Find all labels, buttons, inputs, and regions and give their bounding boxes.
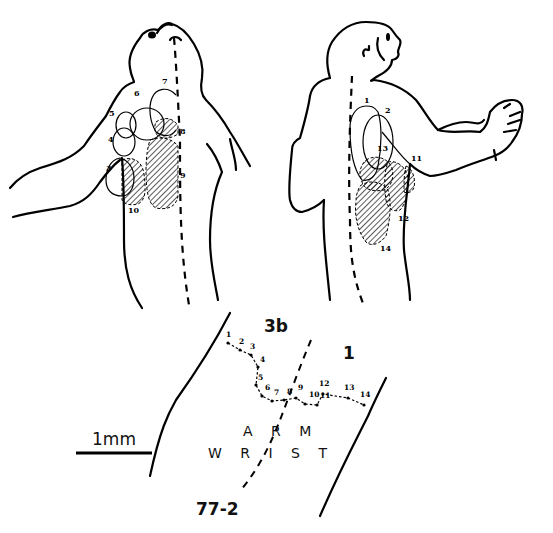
area-border-3b-1 [241, 340, 311, 490]
track-point-5 [254, 383, 257, 386]
track-point-label-6: 6 [265, 383, 270, 392]
track-point-10 [303, 402, 306, 405]
scale-bar: 1mm [76, 429, 152, 453]
track-point-label-7: 7 [274, 388, 279, 397]
right-monkey-ear [363, 46, 369, 56]
track-point-label-12: 12 [319, 379, 329, 388]
receptive-field-9 [146, 138, 178, 209]
track-point-label-14: 14 [360, 390, 370, 399]
left-monkey-arm-lower [13, 160, 120, 217]
region-label-arm: A R M [243, 423, 318, 439]
left-monkey-eye-icon [148, 32, 156, 39]
track-point-label-1: 1 [226, 330, 231, 339]
track-point-label-4: 4 [260, 355, 265, 364]
rf-label-6: 6 [134, 88, 140, 98]
rf-label-3: 3 [106, 163, 112, 173]
right-monkey-face-line [377, 38, 384, 60]
area-label-3b: 3b [264, 316, 288, 336]
track-point-1 [226, 341, 229, 344]
right-monkey-left-shoulder [289, 78, 330, 212]
track-point-label-9: 9 [298, 383, 303, 392]
track-point-9 [294, 396, 297, 399]
track-point-label-13: 13 [344, 383, 354, 392]
left-monkey-figure: 3 4 5 6 7 8 9 10 [10, 23, 250, 308]
area-label-1: 1 [343, 343, 355, 363]
left-monkey-back-right [230, 139, 236, 170]
track-point-6 [260, 394, 263, 397]
rf-label-13: 13 [377, 143, 389, 153]
track-point-label-11: 11 [320, 391, 330, 400]
left-monkey-midline-cap [170, 37, 181, 40]
track-point-label-8: 8 [287, 387, 292, 396]
track-point-8 [282, 398, 285, 401]
right-monkey-figure: 1 2 11 12 13 14 [289, 22, 522, 306]
track-point-14 [362, 403, 365, 406]
rf-label-8: 8 [180, 126, 186, 136]
right-monkey-right-shoulder [374, 80, 523, 176]
track-point-label-10: 10 [309, 390, 319, 399]
rf-label-12: 12 [398, 213, 409, 223]
right-monkey-left-side [323, 200, 330, 300]
electrode-track: 1234567891011121314 [226, 330, 370, 407]
track-point-label-2: 2 [239, 337, 244, 346]
figure-canvas: 3 4 5 6 7 8 9 10 1 2 [0, 0, 553, 533]
rf-label-11: 11 [411, 153, 422, 163]
region-label-wrist: W R I S T [208, 445, 334, 461]
rf-label-5: 5 [109, 108, 115, 118]
left-monkey-torso-right [207, 144, 222, 300]
track-id-label: 77-2 [196, 499, 239, 519]
right-monkey-eye-icon [386, 33, 390, 41]
rf-label-7: 7 [162, 76, 168, 86]
track-point-13 [346, 396, 349, 399]
track-point-12 [321, 392, 324, 395]
track-point-4 [256, 365, 259, 368]
track-point-2 [238, 348, 241, 351]
left-monkey-nose [157, 24, 172, 33]
scale-bar-label: 1mm [92, 429, 136, 449]
rf-label-9: 9 [180, 170, 186, 180]
rf-label-2: 2 [385, 105, 391, 115]
rf-label-14: 14 [380, 243, 392, 253]
right-monkey-hand-fingers [494, 104, 520, 160]
rf-label-10: 10 [128, 205, 140, 215]
track-point-11 [315, 403, 318, 406]
right-monkey-forearm-top [438, 120, 484, 130]
track-point-label-3: 3 [250, 342, 255, 351]
receptive-field-11 [404, 166, 415, 193]
receptive-field-4 [113, 128, 135, 156]
rf-label-1: 1 [364, 95, 370, 105]
track-point-label-5: 5 [258, 373, 263, 382]
rf-label-4: 4 [108, 134, 114, 144]
track-point-3 [249, 353, 252, 356]
cortex-track-map: 3b 1 1234567891011121314 A R M W R I S T… [150, 313, 386, 519]
track-point-7 [270, 399, 273, 402]
